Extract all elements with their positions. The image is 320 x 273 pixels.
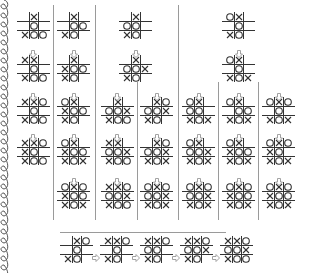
empty-cell [203,97,212,106]
o-mark-icon [29,21,38,30]
x-mark-icon [161,106,170,115]
arrow-down-icon [113,127,121,135]
o-mark-icon [78,147,87,156]
empty-cell [38,64,47,73]
column-divider [178,5,179,220]
o-mark-icon [152,191,161,200]
section-divider [60,232,226,233]
o-mark-icon [234,30,243,39]
o-mark-icon [243,182,252,191]
o-mark-icon [29,73,38,82]
x-mark-icon [243,115,252,124]
o-mark-icon [38,138,47,147]
o-mark-icon [104,106,113,115]
o-mark-icon [69,73,78,82]
board-col1-3 [20,97,47,124]
o-mark-icon [185,97,194,106]
o-mark-icon [223,245,232,254]
o-mark-icon [234,147,243,156]
o-mark-icon [283,138,292,147]
o-mark-icon [78,64,87,73]
x-mark-icon [265,147,274,156]
x-mark-icon [192,236,201,245]
o-mark-icon [194,156,203,165]
o-mark-icon [121,236,130,245]
board-col3b-3 [143,182,170,209]
x-mark-icon [143,200,152,209]
x-mark-icon [203,191,212,200]
o-mark-icon [78,21,87,30]
o-mark-icon [60,138,69,147]
column-divider [218,82,219,220]
o-mark-icon [69,106,78,115]
o-mark-icon [78,106,87,115]
empty-cell [78,138,87,147]
board-col2-4 [60,138,87,165]
o-mark-icon [265,97,274,106]
o-mark-icon [234,73,243,82]
o-mark-icon [283,182,292,191]
o-mark-icon [113,200,122,209]
board-col1-2 [20,55,47,82]
empty-cell [20,12,29,21]
o-mark-icon [38,115,47,124]
o-mark-icon [243,106,252,115]
o-mark-icon [192,245,201,254]
board-col3b-2 [143,138,170,165]
x-mark-icon [143,156,152,165]
empty-cell [161,115,170,124]
x-mark-icon [140,64,149,73]
empty-cell [122,55,131,64]
o-mark-icon [161,236,170,245]
x-mark-icon [143,236,152,245]
x-mark-icon [122,30,131,39]
board-col2-3 [60,97,87,124]
o-mark-icon [283,97,292,106]
empty-cell [283,147,292,156]
arrow-down-icon [195,127,203,135]
board-bottom-2 [103,236,130,263]
x-mark-icon [78,156,87,165]
board-col2-2 [60,55,87,82]
empty-cell [265,106,274,115]
board-col4-root-1 [225,12,252,39]
o-mark-icon [185,191,194,200]
o-mark-icon [29,156,38,165]
arrow-down-icon [70,127,78,135]
o-mark-icon [69,191,78,200]
o-mark-icon [232,245,241,254]
o-mark-icon [122,182,131,191]
o-mark-icon [29,106,38,115]
o-mark-icon [234,191,243,200]
o-mark-icon [131,73,140,82]
o-mark-icon [122,156,131,165]
board-col4b-3 [225,182,252,209]
o-mark-icon [234,21,243,30]
o-mark-icon [131,64,140,73]
o-mark-icon [122,21,131,30]
o-mark-icon [152,156,161,165]
o-mark-icon [69,21,78,30]
o-mark-icon [241,236,250,245]
board-col4b-2 [225,138,252,165]
x-mark-icon [20,30,29,39]
o-mark-icon [192,254,201,263]
x-mark-icon [60,200,69,209]
x-mark-icon [161,191,170,200]
arrow-down-icon [70,171,78,179]
x-mark-icon [225,200,234,209]
o-mark-icon [274,147,283,156]
x-mark-icon [60,147,69,156]
board-col4b-1 [225,97,252,124]
board-col2-5 [60,182,87,209]
board-col1-1 [20,12,47,39]
x-mark-icon [60,156,69,165]
o-mark-icon [152,200,161,209]
o-mark-icon [38,73,47,82]
empty-cell [203,106,212,115]
x-mark-icon [203,200,212,209]
arrow-down-icon [235,86,243,94]
x-mark-icon [122,147,131,156]
o-mark-icon [203,182,212,191]
x-mark-icon [29,12,38,21]
